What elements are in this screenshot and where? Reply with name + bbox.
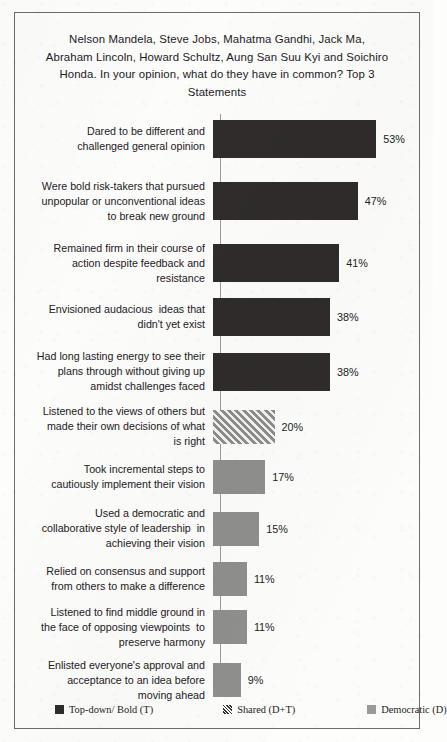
bar-value-label: 41%	[346, 257, 368, 269]
plot-area: Dared to be different and challenged gen…	[15, 114, 419, 682]
bar-value-label: 9%	[248, 674, 264, 686]
bar-category-label: Used a democratic and collaborative styl…	[15, 506, 213, 551]
legend-label: Top-down/ Bold (T)	[69, 704, 153, 715]
bar-category-label: Took incremental steps to cautiously imp…	[15, 462, 213, 492]
bar-track: 15%	[213, 501, 419, 556]
legend-item-democratic[interactable]: Democratic (D)	[367, 704, 446, 715]
bar-value-label: 38%	[337, 366, 359, 378]
bar-track: 11%	[213, 557, 419, 600]
bar-value-label: 47%	[365, 195, 387, 207]
bar-topdown[interactable]	[213, 298, 330, 336]
legend-label: Shared (D+T)	[237, 704, 295, 715]
bar-track: 38%	[213, 293, 419, 341]
bar-track: 47%	[213, 172, 419, 230]
chart-title: Nelson Mandela, Steve Jobs, Mahatma Gand…	[45, 31, 389, 101]
bar-track: 41%	[213, 234, 419, 292]
bar-track: 11%	[213, 601, 419, 653]
legend-swatch-icon	[55, 705, 64, 714]
chart-frame: Nelson Mandela, Steve Jobs, Mahatma Gand…	[14, 12, 420, 729]
bar-category-label: Dared to be different and challenged gen…	[15, 124, 213, 154]
legend-swatch-icon	[223, 705, 232, 714]
bar-row[interactable]: Envisioned audacious ideas that didn't y…	[15, 293, 419, 341]
chart-legend: Top-down/ Bold (T)Shared (D+T)Democratic…	[15, 700, 419, 718]
bar-track: 17%	[213, 454, 419, 499]
bar-category-label: Enlisted everyone's approval and accepta…	[15, 658, 213, 703]
bar-row[interactable]: Listened to find middle ground in the fa…	[15, 601, 419, 653]
bar-row[interactable]: Enlisted everyone's approval and accepta…	[15, 654, 419, 706]
bar-topdown[interactable]	[213, 244, 339, 282]
bar-value-label: 15%	[266, 523, 288, 535]
bar-track: 38%	[213, 344, 419, 399]
bar-democratic[interactable]	[213, 512, 259, 546]
bar-category-label: Had long lasting energy to see their pla…	[15, 349, 213, 394]
bar-row[interactable]: Were bold risk-takers that pursued unpop…	[15, 172, 419, 230]
legend-label: Democratic (D)	[381, 704, 446, 715]
bar-democratic[interactable]	[213, 610, 247, 644]
bar-value-label: 38%	[337, 311, 359, 323]
bar-topdown[interactable]	[213, 120, 376, 158]
bar-row[interactable]: Had long lasting energy to see their pla…	[15, 344, 419, 399]
bar-shared[interactable]	[213, 410, 275, 444]
bar-track: 9%	[213, 654, 419, 706]
bar-row[interactable]: Dared to be different and challenged gen…	[15, 116, 419, 162]
bar-category-label: Remained firm in their course of action …	[15, 241, 213, 286]
bar-democratic[interactable]	[213, 562, 247, 596]
bar-track: 20%	[213, 400, 419, 453]
legend-swatch-icon	[367, 705, 376, 714]
bar-value-label: 11%	[254, 573, 275, 585]
bar-category-label: Relied on consensus and support from oth…	[15, 564, 213, 594]
bar-democratic[interactable]	[213, 663, 241, 697]
bar-value-label: 17%	[272, 471, 294, 483]
bar-category-label: Listened to the views of others but made…	[15, 404, 213, 449]
bar-democratic[interactable]	[213, 460, 265, 494]
bar-category-label: Were bold risk-takers that pursued unpop…	[15, 179, 213, 224]
bar-row[interactable]: Took incremental steps to cautiously imp…	[15, 454, 419, 499]
bar-row[interactable]: Relied on consensus and support from oth…	[15, 557, 419, 600]
bar-category-label: Listened to find middle ground in the fa…	[15, 605, 213, 650]
bar-topdown[interactable]	[213, 182, 358, 220]
bar-topdown[interactable]	[213, 353, 330, 391]
legend-item-topdown[interactable]: Top-down/ Bold (T)	[55, 704, 153, 715]
bar-category-label: Envisioned audacious ideas that didn't y…	[15, 302, 213, 332]
bar-value-label: 20%	[282, 421, 304, 433]
legend-item-shared[interactable]: Shared (D+T)	[223, 704, 295, 715]
bar-value-label: 11%	[254, 621, 275, 633]
bar-track: 53%	[213, 116, 419, 162]
bar-row[interactable]: Remained firm in their course of action …	[15, 234, 419, 292]
bar-row[interactable]: Listened to the views of others but made…	[15, 400, 419, 453]
bar-value-label: 53%	[383, 133, 405, 145]
bar-row[interactable]: Used a democratic and collaborative styl…	[15, 501, 419, 556]
